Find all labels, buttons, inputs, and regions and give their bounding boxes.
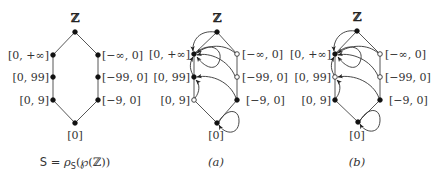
- label-left-2: [0, 9]: [301, 94, 331, 107]
- label-top: ℤ: [353, 10, 363, 24]
- node-right-2: [96, 98, 101, 103]
- lattice-edges: [53, 32, 98, 123]
- label-left-0: [0, +∞]: [8, 49, 49, 62]
- diagram-a: ℤ [0, +∞] [0, 99] [0, 9] [−∞, 0] [−99, 0…: [149, 11, 288, 169]
- node-top: [215, 30, 220, 35]
- label-left-1: [0, 99]: [12, 71, 49, 84]
- node-left-2: [333, 98, 338, 103]
- label-right-0: [−∞, 0]: [385, 48, 426, 61]
- label-right-1: [−99, 0]: [385, 71, 431, 84]
- label-left-0: [0, +∞]: [290, 48, 331, 61]
- label-left-0: [0, +∞]: [149, 48, 190, 61]
- node-left-0: [333, 52, 338, 57]
- node-top: [355, 29, 360, 34]
- label-top: ℤ: [213, 11, 223, 25]
- node-right-1: [96, 75, 101, 80]
- label-left-2: [0, 9]: [19, 94, 49, 107]
- label-left-2: [0, 9]: [160, 94, 190, 107]
- label-right-1: [−99, 0]: [242, 71, 288, 84]
- node-left-2: [192, 98, 197, 103]
- node-left-2: [51, 98, 56, 103]
- lattice-figure: ℤ [0, +∞] [0, 99] [0, 9] [−∞, 0] [−99, 0…: [0, 0, 432, 183]
- node-right-0: [96, 53, 101, 58]
- label-right-0: [−∞, 0]: [242, 48, 283, 61]
- label-right-0: [−∞, 0]: [102, 49, 143, 62]
- label-right-2: [−9, 0]: [389, 94, 428, 107]
- label-bottom: [0]: [349, 129, 365, 142]
- node-left-1: [333, 75, 338, 80]
- node-right-2: [235, 98, 240, 103]
- node-right-0: [235, 52, 240, 57]
- label-right-1: [−99, 0]: [102, 71, 148, 84]
- arrows: [331, 31, 380, 131]
- node-bottom: [73, 121, 78, 126]
- label-left-1: [0, 99]: [153, 71, 190, 84]
- node-top: [73, 30, 78, 35]
- node-left-0: [51, 53, 56, 58]
- label-left-1: [0, 99]: [294, 71, 331, 84]
- node-left-1: [51, 75, 56, 80]
- node-bottom: [356, 120, 361, 125]
- caption-a: (a): [208, 155, 224, 169]
- node-right-1: [235, 75, 240, 80]
- node-right-0: [378, 52, 383, 57]
- label-bottom: [0]: [208, 129, 224, 142]
- node-left-0: [192, 52, 197, 57]
- label-bottom: [0]: [67, 129, 83, 142]
- diagram-s: ℤ [0, +∞] [0, 99] [0, 9] [−∞, 0] [−99, 0…: [8, 11, 148, 171]
- caption-s: S = ρS(℘(ℤ)): [40, 155, 110, 171]
- node-left-1: [192, 75, 197, 80]
- node-right-1: [378, 75, 383, 80]
- caption-b: (b): [349, 155, 365, 169]
- label-right-2: [−9, 0]: [246, 94, 285, 107]
- lattice-edges: [194, 32, 237, 123]
- label-top: ℤ: [71, 11, 81, 25]
- arrows: [190, 32, 239, 132]
- node-bottom: [215, 121, 220, 126]
- node-right-2: [378, 98, 383, 103]
- label-right-2: [−9, 0]: [102, 94, 141, 107]
- diagram-b: ℤ [0, +∞] [0, 99] [0, 9] [−∞, 0] [−99, 0…: [290, 10, 431, 169]
